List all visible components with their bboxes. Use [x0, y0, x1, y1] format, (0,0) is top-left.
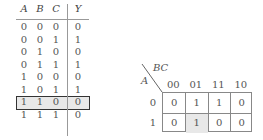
table-cell: 1 [34, 109, 46, 121]
table-cell: 1 [18, 109, 30, 121]
kmap-col-label: 01 [185, 79, 208, 90]
kmap-cell: 0 [163, 93, 186, 113]
table-cell: 0 [50, 96, 62, 108]
table-cell: 1 [34, 96, 46, 108]
table-cell: 0 [72, 109, 84, 121]
kmap-col-variable: BC [153, 62, 168, 73]
header-y: Y [72, 3, 84, 15]
kmap-col-label: 11 [207, 79, 230, 90]
table-cell: 0 [18, 46, 30, 58]
table-cell: 0 [50, 71, 62, 83]
kmap-grid: 0 1 1 0 0 1 0 0 [162, 92, 252, 132]
table-cell: 1 [50, 59, 62, 71]
kmap-cell: 1 [186, 93, 209, 113]
kmap-cell: 1 [186, 113, 209, 133]
header-c: C [50, 3, 62, 15]
kmap-row-label: 0 [148, 97, 158, 108]
table-cell: 0 [34, 71, 46, 83]
table-cell: 0 [34, 21, 46, 33]
table-cell: 1 [72, 84, 84, 96]
kmap-row-label: 1 [148, 117, 158, 128]
table-cell: 0 [72, 46, 84, 58]
kmap-cell: 0 [208, 113, 231, 133]
table-cell: 1 [34, 59, 46, 71]
header-a: A [18, 3, 30, 15]
table-cell: 0 [50, 46, 62, 58]
table-cell: 1 [34, 46, 46, 58]
kmap-col-label: 10 [230, 79, 253, 90]
table-cell: 1 [50, 84, 62, 96]
table-cell: 1 [18, 96, 30, 108]
kmap-row-variable: A [141, 75, 148, 86]
table-cell: 0 [72, 21, 84, 33]
kmap-cell: 0 [231, 93, 254, 113]
table-cell: 0 [72, 71, 84, 83]
table-cell: 0 [18, 21, 30, 33]
table-cell: 0 [34, 34, 46, 46]
table-cell: 0 [34, 84, 46, 96]
table-cell: 1 [18, 84, 30, 96]
kmap-col-label: 00 [162, 79, 185, 90]
header-b: B [34, 3, 46, 15]
table-cell: 1 [50, 109, 62, 121]
table-cell: 0 [50, 21, 62, 33]
kmap-cell: 1 [208, 93, 231, 113]
kmap-cell: 0 [163, 113, 186, 133]
table-cell: 0 [72, 96, 84, 108]
table-cell: 0 [18, 59, 30, 71]
header-divider [16, 19, 89, 20]
table-cell: 1 [18, 71, 30, 83]
table-cell: 1 [72, 34, 84, 46]
output-divider [67, 4, 68, 136]
table-cell: 1 [72, 59, 84, 71]
table-cell: 0 [18, 34, 30, 46]
kmap-cell: 0 [231, 113, 254, 133]
table-cell: 1 [50, 34, 62, 46]
